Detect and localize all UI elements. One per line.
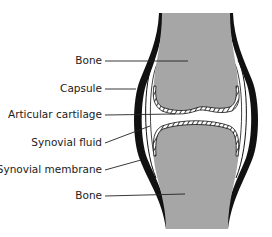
bone-bottom-shape: [153, 123, 239, 229]
synovial-joint-diagram: Bone Capsule Articular cartilage Synovia…: [0, 0, 272, 237]
label-synovial-fluid: Synovial fluid: [31, 136, 102, 148]
label-bone-bottom: Bone: [75, 189, 102, 201]
label-articular-cartilage: Articular cartilage: [8, 108, 102, 120]
bone-top-shape: [153, 13, 239, 112]
label-capsule: Capsule: [60, 82, 102, 94]
label-synovial-membrane: Synovial membrane: [0, 163, 102, 175]
label-bone-top: Bone: [75, 54, 102, 66]
